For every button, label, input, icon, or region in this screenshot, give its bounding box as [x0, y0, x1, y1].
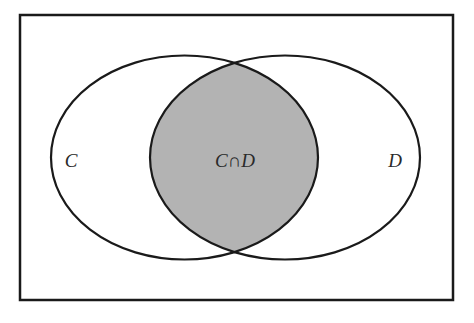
venn-diagram: C C∩D D	[0, 0, 474, 323]
set-c-label: C	[65, 151, 78, 170]
intersection-label: C∩D	[215, 151, 255, 170]
set-d-label: D	[388, 151, 402, 170]
